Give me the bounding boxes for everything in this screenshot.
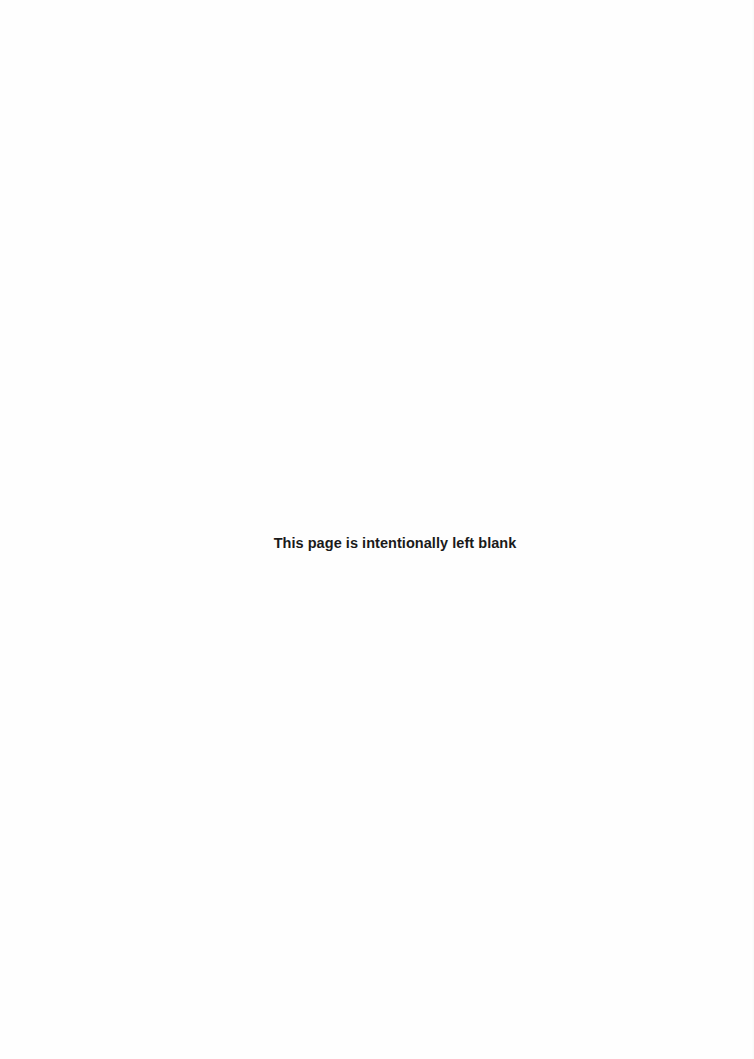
blank-page-notice: This page is intentionally left blank [0, 535, 754, 551]
document-page: This page is intentionally left blank [0, 0, 754, 1059]
